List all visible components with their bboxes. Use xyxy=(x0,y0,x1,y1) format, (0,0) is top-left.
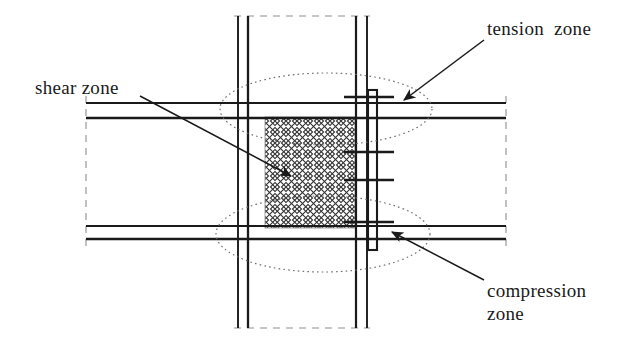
compression-zone-label-line2: zone xyxy=(487,303,524,324)
shear-zone-label: shear zone xyxy=(35,76,119,99)
figure-canvas: tension zone shear zone compressionzone xyxy=(0,0,641,340)
shear-panel-hatch-fill xyxy=(265,117,355,228)
upper-beam xyxy=(86,103,506,118)
compression-zone-label: compressionzone xyxy=(487,279,586,325)
compression-zone-label-line1: compression xyxy=(487,280,586,301)
panel-zone-hatched-region xyxy=(265,117,355,228)
tension-zone-label: tension zone xyxy=(487,17,591,40)
tension-zone-leader-arrow xyxy=(404,40,484,100)
